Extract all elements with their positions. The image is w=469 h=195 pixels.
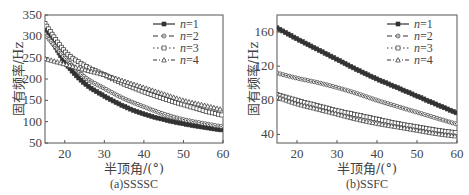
chart-panel-b: 40801201602030405060半顶角/(°)固有频率/Hz(b)SSF…: [246, 15, 464, 191]
chart-panel-a: 501001502002503003502030405060半顶角/(°)固有频…: [11, 7, 230, 191]
figure: 501001502002503003502030405060半顶角/(°)固有频…: [0, 0, 469, 195]
x-tick-label: 20: [58, 146, 71, 161]
y-axis-label: 固有频率/Hz: [11, 42, 26, 117]
y-tick-label: 80: [261, 92, 274, 107]
x-tick-label: 30: [98, 146, 111, 161]
x-axis-label: 半顶角/(°): [337, 161, 397, 176]
x-tick-label: 40: [371, 146, 384, 161]
y-tick-label: 50: [29, 135, 42, 150]
chart-caption: (a)SSSSC: [110, 177, 158, 191]
x-tick-label: 50: [177, 146, 190, 161]
legend: n=1n=2n=3n=4: [387, 17, 433, 67]
y-tick-label: 160: [255, 24, 275, 39]
legend-item-n4: n=4: [414, 53, 433, 67]
legend: n=1n=2n=3n=4: [153, 17, 199, 67]
y-axis-label: 固有频率/Hz: [246, 42, 261, 117]
x-tick-label: 50: [411, 146, 424, 161]
y-tick-label: 40: [261, 126, 274, 141]
x-tick-label: 60: [217, 146, 230, 161]
x-tick-label: 60: [451, 146, 464, 161]
y-tick-label: 350: [23, 7, 43, 22]
y-tick-label: 300: [23, 28, 43, 43]
chart-caption: (b)SSFC: [346, 177, 388, 191]
x-tick-label: 30: [331, 146, 344, 161]
x-tick-label: 20: [291, 146, 304, 161]
x-tick-label: 40: [137, 146, 150, 161]
legend-item-n4: n=4: [180, 53, 199, 67]
x-axis-label: 半顶角/(°): [104, 161, 164, 176]
